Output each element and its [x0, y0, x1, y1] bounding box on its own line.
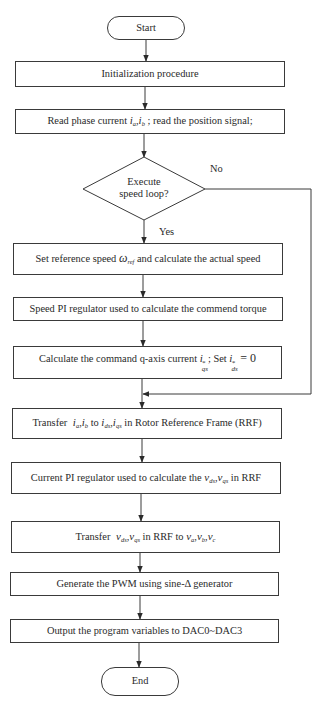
- start-terminal: Start: [107, 16, 185, 40]
- step-speed-pi-regulator: Speed PI regulator used to calculate the…: [13, 297, 283, 321]
- end-terminal: End: [101, 667, 179, 696]
- step-label: Calculate the command q-axis current i*q…: [39, 352, 256, 372]
- step-label: Transfer vds,vqs in RRF to va,vb,vc: [76, 531, 216, 544]
- step-transfer-to-rrf: Transfer ia,ib to ids,iqs in Rotor Refer…: [12, 408, 282, 439]
- start-label: Start: [136, 23, 156, 33]
- step-label: Current PI regulator used to calculate t…: [31, 472, 261, 485]
- step-transfer-to-abc: Transfer vds,vqs in RRF to va,vb,vc: [11, 521, 280, 553]
- step-set-reference-speed: Set reference speed ωref and calculate t…: [13, 243, 283, 275]
- step-label: Speed PI regulator used to calculate the…: [29, 304, 266, 314]
- step-label: Set reference speed ωref and calculate t…: [36, 252, 261, 266]
- yes-label: Yes: [159, 226, 174, 238]
- step-initialization: Initialization procedure: [15, 61, 285, 87]
- step-label: Generate the PWM using sine-Δ generator: [56, 579, 232, 589]
- step-label: Transfer ia,ib to ids,iqs in Rotor Refer…: [32, 417, 261, 430]
- step-label: Initialization procedure: [101, 69, 198, 79]
- step-calculate-iq-command: Calculate the command q-axis current i*q…: [13, 346, 282, 379]
- no-label: No: [210, 163, 223, 175]
- step-generate-pwm: Generate the PWM using sine-Δ generator: [10, 572, 279, 596]
- end-label: End: [132, 676, 149, 686]
- step-label: Output the program variables to DAC0~DAC…: [47, 626, 242, 636]
- step-current-pi-regulator: Current PI regulator used to calculate t…: [11, 462, 281, 494]
- step-label: Read phase current ia,ib ; read the posi…: [47, 115, 252, 128]
- step-read-current: Read phase current ia,ib ; read the posi…: [15, 109, 285, 134]
- step-output-dac: Output the program variables to DAC0~DAC…: [10, 619, 279, 643]
- decision-label: Execute speed loop?: [100, 176, 188, 200]
